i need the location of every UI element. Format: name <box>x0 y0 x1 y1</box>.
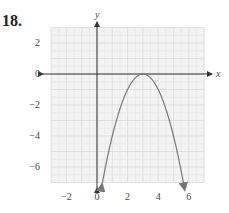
parabola-chart: xy−2024620−2−4−6 <box>0 0 229 213</box>
x-tick-label: 2 <box>125 191 130 202</box>
y-tick-label: 2 <box>35 37 40 48</box>
y-tick-label: −4 <box>29 130 40 141</box>
y-tick-label: 0 <box>35 68 40 79</box>
x-tick-label: 0 <box>95 191 100 202</box>
y-tick-label: −6 <box>29 161 40 172</box>
x-tick-label: 4 <box>156 191 161 202</box>
x-tick-label: −2 <box>61 191 72 202</box>
y-axis-label: y <box>94 9 100 20</box>
x-tick-label: 6 <box>186 191 191 202</box>
y-tick-label: −2 <box>29 99 40 110</box>
x-axis-label: x <box>215 68 221 79</box>
